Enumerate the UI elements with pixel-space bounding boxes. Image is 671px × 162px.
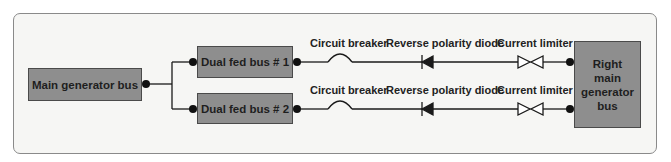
right-bus-label-line-1: Right — [593, 57, 622, 71]
main-generator-bus-box: Main generator bus — [28, 68, 142, 101]
right-bus-label-line-3: generator — [581, 85, 634, 99]
circuit-breaker-label-1: Circuit breaker — [310, 37, 388, 49]
dual-fed-bus-2-box: Dual fed bus # 2 — [197, 93, 293, 124]
diode-icon-2 — [422, 102, 433, 116]
current-limiter-icon-2 — [518, 103, 543, 115]
current-limiter-icon-1 — [518, 56, 543, 68]
diode-label-1: Reverse polarity diode — [386, 37, 504, 49]
main-generator-bus-label: Main generator bus — [32, 78, 138, 92]
circuit-breaker-icon-2 — [328, 101, 352, 109]
dual-fed-bus-2-label: Dual fed bus # 2 — [201, 102, 289, 116]
circuit-breaker-label-2: Circuit breaker — [310, 84, 388, 96]
current-limiter-label-2: Current limiter — [497, 84, 573, 96]
current-limiter-label-1: Current limiter — [497, 37, 573, 49]
dual-fed-bus-1-label: Dual fed bus # 1 — [201, 55, 289, 69]
circuit-breaker-icon-1 — [328, 54, 352, 62]
right-bus-label-line-2: main — [594, 71, 621, 85]
diode-icon-1 — [422, 55, 433, 69]
right-bus-label-line-4: bus — [597, 99, 617, 113]
dual-fed-bus-1-box: Dual fed bus # 1 — [197, 46, 293, 78]
diode-label-2: Reverse polarity diode — [386, 84, 504, 96]
right-main-generator-bus-box: Right main generator bus — [574, 41, 641, 128]
